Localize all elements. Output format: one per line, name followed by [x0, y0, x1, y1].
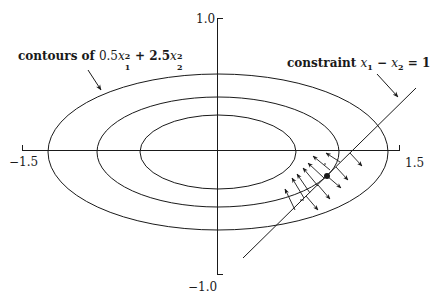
y-max-label: 1.0 [196, 13, 215, 25]
constraint-label-arrow [377, 74, 398, 97]
contour-label-arrow [88, 70, 101, 90]
constraint-label: constraint x1 − x2 = 1 [287, 57, 430, 71]
annotation-arrows [88, 70, 398, 97]
contour-label: contours of 0.5x21 + 2.5x22 [18, 50, 183, 62]
y-min-label: −1.0 [188, 281, 217, 293]
x-min-label: −1.5 [9, 156, 38, 168]
constraint-line [243, 88, 416, 258]
optimum-point [324, 173, 330, 179]
x-max-label: 1.5 [405, 157, 424, 169]
